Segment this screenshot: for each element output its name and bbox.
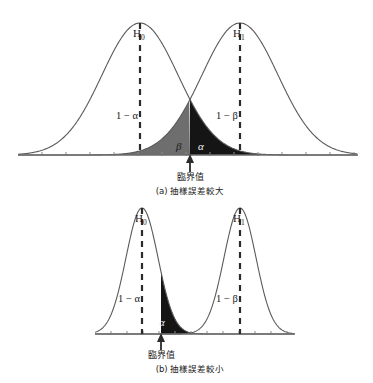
alpha-region-shade-a xyxy=(190,99,358,155)
h0-subscript-b: 0 xyxy=(143,218,147,227)
critical-value-label-a: 臨界值 xyxy=(177,171,204,182)
h0-label-b: H xyxy=(135,212,143,224)
caption-b: (b) 抽樣誤差較小 xyxy=(156,364,225,374)
h1-label-a: H xyxy=(233,27,241,39)
panel-a: H 0 H 1 1 − α 1 − β β α 臨界值 (a) 抽樣誤差較大 xyxy=(18,23,358,196)
critical-value-label-b: 臨界值 xyxy=(148,349,175,360)
h0-curve-b xyxy=(95,208,294,334)
h1-subscript-b: 1 xyxy=(241,218,245,227)
critical-value-arrow-a xyxy=(186,154,194,172)
h1-label-b: H xyxy=(233,212,241,224)
caption-a: (a) 抽樣誤差較大 xyxy=(156,186,225,196)
h1-subscript-a: 1 xyxy=(241,33,245,42)
alpha-region-label-a: α xyxy=(198,140,204,152)
critical-value-arrow-b xyxy=(157,333,165,350)
power-right-label-b: 1 − β xyxy=(216,293,238,304)
beta-region-shade-a xyxy=(18,101,190,155)
h1-curve-b xyxy=(95,208,294,334)
hypothesis-test-figure: H 0 H 1 1 − α 1 − β β α 臨界值 (a) 抽樣誤差較大 H… xyxy=(0,0,373,383)
panel-b: H 0 H 1 1 − α 1 − β α 臨界值 (b) 抽樣誤差較小 xyxy=(95,208,295,374)
power-right-label-a: 1 − β xyxy=(216,110,238,121)
h0-label-a: H xyxy=(133,27,141,39)
power-left-label-a: 1 − α xyxy=(116,110,138,121)
alpha-region-label-b: α xyxy=(159,316,165,328)
h0-subscript-a: 0 xyxy=(141,33,145,42)
power-left-label-b: 1 − α xyxy=(118,293,140,304)
beta-region-label-a: β xyxy=(175,140,182,152)
